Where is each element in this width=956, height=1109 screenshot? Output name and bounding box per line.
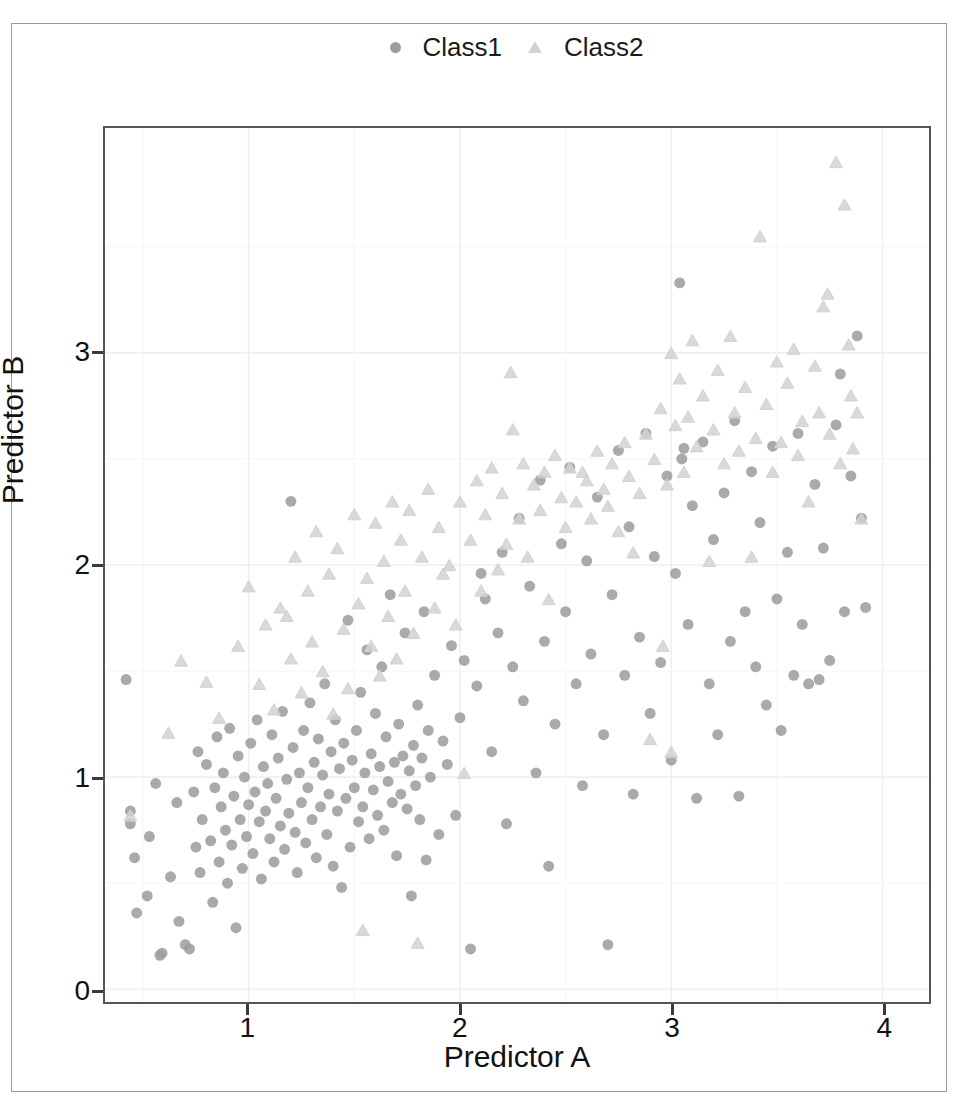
y-tick-label: 3 [74, 336, 90, 368]
y-axis-title: Predictor B [0, 356, 30, 504]
x-tick-mark [671, 1004, 674, 1015]
plot-panel [103, 126, 931, 1004]
x-tick-mark [883, 1004, 886, 1015]
series-class1 [121, 277, 871, 960]
x-tick-mark [246, 1004, 249, 1015]
series-class2 [124, 156, 868, 948]
x-axis-title: Predictor A [103, 1040, 931, 1074]
x-tick-mark [459, 1004, 462, 1015]
y-tick-label: 2 [74, 549, 90, 581]
legend: Class1 Class2 [103, 28, 930, 66]
circle-marker-icon [390, 42, 401, 53]
y-tick-mark [92, 564, 103, 567]
legend-item-class2[interactable]: Class2 [528, 32, 643, 63]
legend-label-class1: Class1 [423, 32, 502, 63]
y-tick-label: 0 [74, 975, 90, 1007]
y-axis-tick-labels: 0123 [46, 126, 90, 1004]
triangle-marker-icon [528, 41, 542, 53]
y-tick-mark [92, 777, 103, 780]
legend-item-class1[interactable]: Class1 [390, 32, 502, 63]
y-tick-mark [92, 351, 103, 354]
y-tick-mark [92, 990, 103, 993]
y-tick-label: 1 [74, 762, 90, 794]
legend-label-class2: Class2 [564, 32, 643, 63]
figure-page: Class1 Class2 0123 1234 Predictor B Pred… [0, 0, 956, 1109]
plot-area [103, 126, 931, 1004]
scatter-points [105, 128, 929, 1002]
